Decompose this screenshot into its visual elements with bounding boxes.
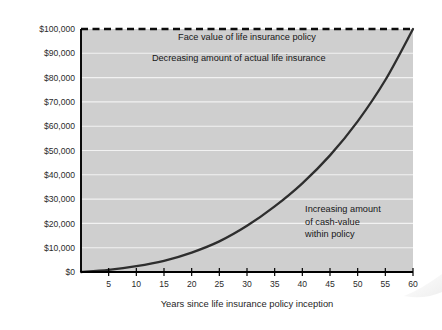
y-tick-label: $100,000 — [39, 24, 75, 34]
chart-figure: Face value of life insurance policyDecre… — [0, 0, 442, 330]
x-tick-label: 55 — [381, 279, 391, 289]
annotation-line: of cash-value — [305, 217, 360, 227]
y-tick-label: $50,000 — [44, 146, 75, 156]
y-tick-label: $30,000 — [44, 194, 75, 204]
x-tick-label: 15 — [159, 279, 169, 289]
y-tick-label: $70,000 — [44, 97, 75, 107]
y-tick-label: $0 — [65, 267, 75, 277]
annotation-line: within policy — [304, 229, 355, 239]
x-tick-label: 50 — [353, 279, 363, 289]
y-tick-label: $80,000 — [44, 73, 75, 83]
x-tick-label: 25 — [215, 279, 225, 289]
y-tick-label: $20,000 — [44, 219, 75, 229]
face-value-label: Face value of life insurance policy — [178, 32, 316, 42]
y-tick-label: $60,000 — [44, 121, 75, 131]
x-axis-title: Years since life insurance policy incept… — [161, 298, 334, 309]
x-tick-label: 40 — [298, 279, 308, 289]
x-tick-label: 10 — [132, 279, 142, 289]
annotation-line: Decreasing amount of actual life insuran… — [152, 53, 326, 63]
x-tick-label: 60 — [408, 279, 418, 289]
decreasing-insurance-label: Decreasing amount of actual life insuran… — [152, 53, 326, 63]
y-tick-label: $10,000 — [44, 243, 75, 253]
x-tick-label: 30 — [242, 279, 252, 289]
x-tick-label: 35 — [270, 279, 280, 289]
y-tick-label: $90,000 — [44, 48, 75, 58]
x-tick-label: 45 — [325, 279, 335, 289]
annotation-line: Face value of life insurance policy — [178, 32, 316, 42]
x-tick-label: 20 — [187, 279, 197, 289]
y-tick-label: $40,000 — [44, 170, 75, 180]
annotation-line: Increasing amount — [305, 204, 381, 214]
x-tick-label: 5 — [106, 279, 111, 289]
